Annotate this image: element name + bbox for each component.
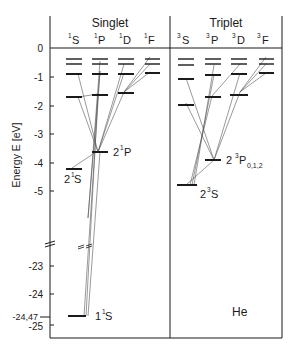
column-header-3S: 3 S: [177, 32, 189, 46]
svg-text:1: 1: [95, 310, 101, 322]
svg-text:P: P: [124, 146, 131, 158]
svg-text:P: P: [98, 34, 105, 46]
svg-text:0,1,2: 0,1,2: [247, 162, 263, 169]
singlet-title: Singlet: [92, 16, 129, 30]
svg-text:-1: -1: [34, 72, 43, 83]
svg-text:P: P: [239, 154, 246, 166]
svg-text:-4: -4: [34, 158, 43, 169]
label-2-3S: 2 3 S: [200, 186, 218, 200]
svg-text:S: S: [105, 310, 112, 322]
svg-text:-24: -24: [29, 289, 44, 300]
column-header-3P: 3 P: [206, 32, 218, 46]
svg-text:-3: -3: [34, 129, 43, 140]
label-2-3P: 2 3 P 0,1,2: [226, 152, 263, 169]
svg-text:-2: -2: [34, 101, 43, 112]
label-1-1S: 1 1 S: [95, 308, 112, 322]
label-2-1P: 2 1 P: [113, 144, 131, 158]
column-header-1S: 1 S: [68, 32, 79, 46]
column-header-1D: 1 D: [119, 32, 131, 46]
y-axis-ticks: [40, 77, 54, 325]
svg-text:P: P: [211, 34, 218, 46]
triplet-F-levels: [259, 59, 274, 73]
column-header-3F: 3 F: [257, 32, 269, 46]
svg-text:D: D: [123, 34, 131, 46]
svg-text:2: 2: [226, 154, 232, 166]
column-header-1F: 1 F: [144, 32, 155, 46]
svg-text:0: 0: [37, 43, 43, 54]
svg-text:S: S: [72, 34, 79, 46]
svg-text:3: 3: [257, 32, 261, 39]
svg-text:S: S: [211, 188, 218, 200]
y-axis-label: Energy E [eV]: [10, 123, 22, 188]
svg-text:3: 3: [232, 32, 236, 39]
energy-level-diagram: Singlet Triplet 1 S 1 P 1 D 1 F 3 S 3 P …: [0, 0, 293, 346]
svg-text:2: 2: [200, 188, 206, 200]
element-label: He: [232, 305, 248, 319]
triplet-S-levels: [177, 59, 197, 185]
svg-text:-23: -23: [29, 261, 44, 272]
singlet-S-levels: [66, 59, 86, 316]
svg-text:2: 2: [64, 173, 70, 185]
column-header-1P: 1 P: [94, 32, 105, 46]
svg-text:-25: -25: [29, 321, 44, 332]
svg-text:F: F: [262, 34, 269, 46]
svg-text:3: 3: [206, 32, 210, 39]
label-2-1S: 2 1 S: [64, 171, 81, 185]
svg-text:D: D: [237, 34, 245, 46]
svg-text:3: 3: [177, 32, 181, 39]
svg-text:S: S: [182, 34, 189, 46]
triplet-title: Triplet: [210, 16, 244, 30]
svg-text:-5: -5: [34, 186, 43, 197]
svg-text:S: S: [74, 173, 81, 185]
svg-text:F: F: [148, 34, 155, 46]
column-header-3D: 3 D: [232, 32, 245, 46]
svg-text:2: 2: [113, 146, 119, 158]
